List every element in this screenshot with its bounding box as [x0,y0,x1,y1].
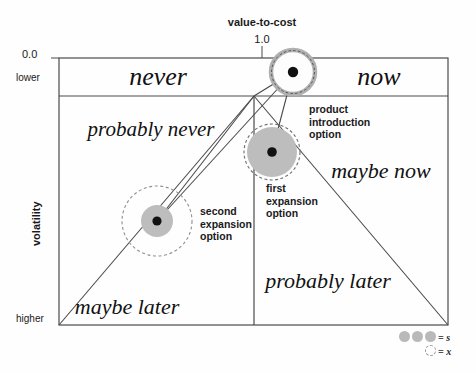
diagram-canvas [0,0,476,373]
region-label-never: never [129,62,187,92]
second-expansion-center-dot [152,216,161,225]
x-axis-tick-label: 1.0 [254,33,269,45]
legend-s-label: = s [438,332,450,343]
x-axis-label: value-to-cost [228,16,296,28]
first-expansion-center-dot [267,147,277,157]
region-label-probably-later: probably later [265,268,391,294]
region-label-maybe-later: maybe later [75,294,179,320]
legend-s-dot-3 [425,331,436,342]
region-label-probably-never: probably never [88,117,215,142]
y-axis-label: volatility [30,201,42,246]
legend-x-circle [425,345,436,356]
tomato-garden-diagram: value-to-cost 1.0 0.0 lower higher volat… [0,0,476,373]
region-label-now: now [357,62,400,92]
legend-x-label: = x [438,346,451,357]
y-axis-lower-category-label: lower [16,72,40,83]
annotation-second-expansion-option: second expansion option [200,205,252,243]
connector-vertex-to-second [157,96,254,221]
legend-s-dot-2 [412,331,423,342]
annotation-product-introduction-option: product introduction option [309,103,370,141]
product-introduction-center-dot [288,67,298,77]
annotation-first-expansion-option: first expansion option [266,182,318,220]
legend-s-dot-1 [399,331,410,342]
y-axis-top-tick-label: 0.0 [22,48,37,60]
y-axis-higher-category-label: higher [16,313,44,324]
region-label-maybe-now: maybe now [331,158,431,184]
